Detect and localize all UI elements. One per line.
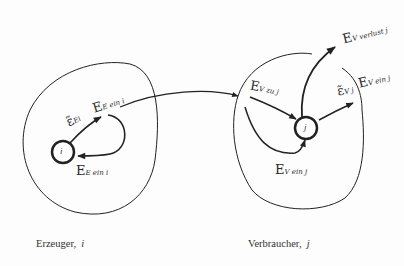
node-j-label: j	[304, 122, 307, 132]
label-e-ein-i-lower: EE ein i	[76, 163, 108, 178]
label-e-v-ein-j-bottom: EV ein j	[275, 162, 307, 177]
node-i	[52, 141, 74, 163]
energy-flow-diagram: ε̃Ei EE ein i EE ein i i EV zu j EV verl…	[0, 0, 404, 266]
caption-producer: Erzeuger, i	[36, 238, 84, 249]
node-i-label: i	[60, 146, 63, 156]
producer-boundary	[23, 63, 157, 215]
caption-consumer: Verbraucher, j	[248, 238, 310, 249]
